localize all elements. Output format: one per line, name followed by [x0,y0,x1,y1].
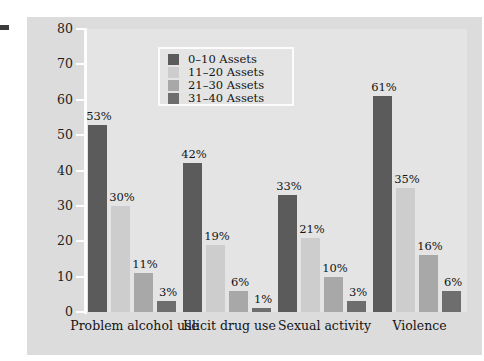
bar-value-label: 35% [393,174,422,186]
chart-figure: 01020304050607080 53%30%11%3%42%19%6%1%3… [0,0,484,361]
bar [373,96,392,312]
bar-value-label: 30% [108,192,137,204]
y-axis-tick [76,28,87,30]
bar-value-label: 16% [416,241,445,253]
bar-value-label: 53% [85,111,114,123]
bar-value-label: 19% [203,231,232,243]
chart-card: 01020304050607080 53%30%11%3%42%19%6%1%3… [27,17,482,355]
bar [419,255,438,312]
bar [206,245,225,312]
legend-swatch-icon [168,67,179,78]
bar-value-label: 11% [131,259,160,271]
bar [324,277,343,312]
bar-value-label: 33% [275,181,304,193]
bar-value-label: 61% [370,82,399,94]
bar-value-label: 42% [180,149,209,161]
legend-swatch-icon [168,54,179,65]
y-axis-tick-label: 20 [43,235,73,248]
crop-mark-icon [0,25,9,30]
y-axis-tick [76,63,87,65]
bar [183,163,202,312]
y-axis-tick-label: 10 [43,271,73,284]
bar-value-label: 3% [154,287,183,299]
bar [88,125,107,312]
legend-item: 21–30 Assets [168,79,286,92]
bar [134,273,153,312]
bar [301,238,320,312]
legend-item: 31–40 Assets [168,92,286,105]
legend-label: 11–20 Assets [188,67,264,79]
bar-value-label: 6% [226,277,255,289]
bar [278,195,297,312]
y-axis-tick [76,99,87,101]
bar [347,301,366,312]
bar [157,301,176,312]
y-axis-tick-label: 30 [43,200,73,213]
y-axis-tick [76,240,87,242]
bar [396,188,415,312]
bar-value-label: 21% [298,224,327,236]
bar [252,308,271,312]
chart-legend: 0–10 Assets 11–20 Assets 21–30 Assets 31… [158,47,294,106]
legend-label: 31–40 Assets [188,93,264,105]
bar-value-label: 10% [321,263,350,275]
legend-label: 0–10 Assets [188,54,257,66]
legend-label: 21–30 Assets [188,80,264,92]
y-axis-tick-label: 80 [43,23,73,36]
y-axis-tick-label: 70 [43,58,73,71]
bar [229,291,248,312]
y-axis-tick [76,276,87,278]
legend-swatch-icon [168,80,179,91]
category-axis-label: Violence [354,320,484,333]
legend-swatch-icon [168,93,179,104]
y-axis-tick-label: 60 [43,94,73,107]
y-axis-tick [76,311,87,313]
bar-value-label: 3% [344,287,373,299]
bar-value-label: 6% [439,277,468,289]
bar-value-label: 1% [249,294,278,306]
y-axis-tick-label: 50 [43,129,73,142]
y-axis-tick [76,170,87,172]
legend-item: 0–10 Assets [168,53,286,66]
bar [111,206,130,312]
y-axis-tick-label: 40 [43,165,73,178]
bar [442,291,461,312]
y-axis-tick-label: 0 [43,306,73,319]
y-axis-tick [76,134,87,136]
y-axis-tick [76,205,87,207]
legend-item: 11–20 Assets [168,66,286,79]
